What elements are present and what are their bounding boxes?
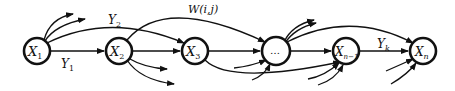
edge-x1-out2 (45, 19, 85, 41)
edge-label-y1: Y1 (61, 57, 74, 73)
edge-in-dots-1 (234, 60, 266, 68)
edge-label-y2: Y2 (108, 13, 121, 29)
node-dots-label: … (270, 45, 280, 56)
edge-label-w: W(i,j) (188, 3, 218, 16)
edge-in-xn-2 (391, 63, 416, 84)
edge-label-yk: Yk (377, 37, 390, 53)
edge-in-xn-1 (386, 59, 413, 71)
transition-diagram: X1 X2 X3 … Xn−1 Xn Y1 Y2 W(i,j) Yk (0, 0, 455, 91)
edge-x2-out2 (127, 60, 174, 84)
